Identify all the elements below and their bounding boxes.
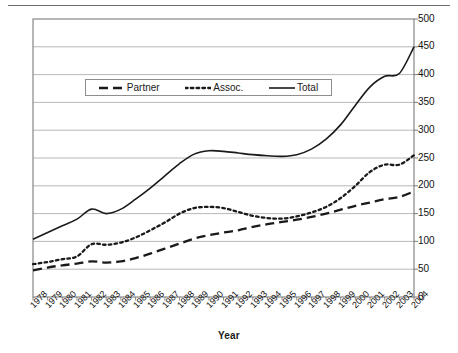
legend-entry-partner: Partner: [99, 83, 160, 93]
y-axis-tick-label: 400: [418, 68, 435, 79]
y-axis-tick-label: 150: [418, 207, 435, 218]
dotted-line-swatch: [185, 84, 211, 92]
y-axis-tick-label: 250: [418, 152, 435, 163]
legend-label: Partner: [127, 83, 160, 93]
legend-entry-assoc: Assoc.: [185, 83, 243, 93]
x-axis-title: Year: [0, 330, 458, 341]
chart-figure: PartnerAssoc.Total Year 0501001502002503…: [0, 0, 458, 353]
legend-label: Total: [297, 83, 318, 93]
y-axis-tick-label: 350: [418, 96, 435, 107]
dashed-line-swatch: [99, 84, 125, 92]
solid-line-swatch: [269, 84, 295, 92]
legend-entry-total: Total: [269, 83, 318, 93]
y-axis-tick-label: 300: [418, 124, 435, 135]
y-axis-tick-label: 200: [418, 179, 435, 190]
legend-label: Assoc.: [213, 83, 243, 93]
chart-legend: PartnerAssoc.Total: [85, 79, 332, 96]
y-axis-tick-label: 50: [418, 263, 429, 274]
y-axis-tick-label: 450: [418, 40, 435, 51]
y-axis-tick-label: 100: [418, 235, 435, 246]
y-axis-tick-label: 500: [418, 13, 435, 24]
